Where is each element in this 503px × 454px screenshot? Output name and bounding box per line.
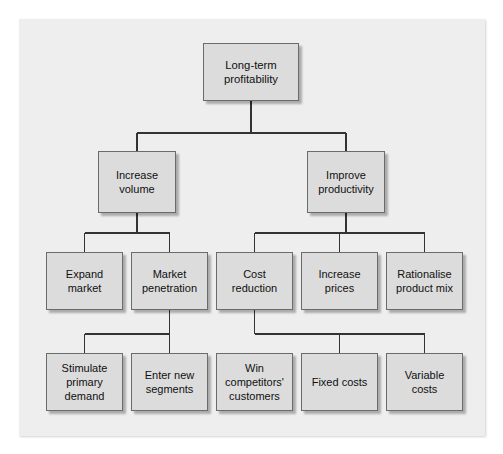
node-n0: Long-term profitability	[203, 43, 299, 101]
node-n3: Expand market	[46, 252, 123, 310]
node-n5: Cost reduction	[216, 252, 293, 310]
node-n8: Stimulate primary demand	[46, 353, 123, 411]
node-n1: Increase volume	[98, 151, 176, 213]
node-n7: Rationalise product mix	[386, 252, 463, 310]
node-n9: Enter new segments	[131, 353, 208, 411]
node-n6: Increase prices	[301, 252, 378, 310]
node-n11: Fixed costs	[301, 353, 378, 411]
node-n4: Market penetration	[131, 252, 208, 310]
node-n2: Improve productivity	[307, 151, 385, 213]
diagram-canvas: Long-term profitabilityIncrease volumeIm…	[0, 0, 503, 454]
node-n12: Variable costs	[386, 353, 463, 411]
node-n10: Win competitors' customers	[216, 353, 293, 411]
